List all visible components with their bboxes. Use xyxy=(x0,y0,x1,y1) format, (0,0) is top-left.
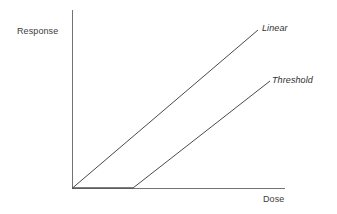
series-label-linear: Linear xyxy=(262,23,288,34)
series-label-threshold: Threshold xyxy=(272,75,313,86)
dose-response-chart: Response Dose Linear Threshold xyxy=(0,0,337,214)
x-axis-label: Dose xyxy=(263,194,284,205)
y-axis-label: Response xyxy=(17,26,58,37)
threshold-series-line xyxy=(133,81,270,188)
linear-series-line xyxy=(73,30,259,188)
